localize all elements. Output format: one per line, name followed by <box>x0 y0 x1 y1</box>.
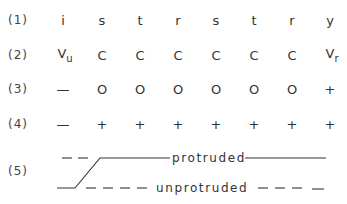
unprotruded-label: unprotruded <box>156 181 248 195</box>
protrusion-diagram: protruded unprotruded <box>0 0 347 204</box>
protruded-label: protruded <box>172 151 246 165</box>
